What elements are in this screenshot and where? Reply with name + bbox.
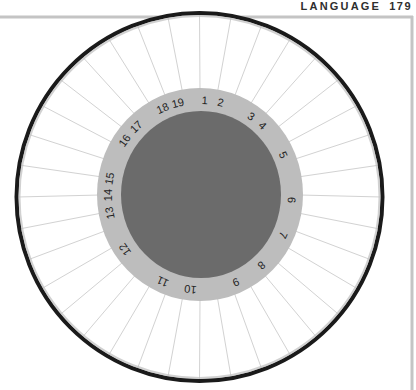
spoke-line [200,14,201,91]
circular-diagram: 12345678910111213141516171819 [0,0,416,390]
ring-label: 10 [184,283,197,296]
ring-label: 6 [286,197,298,204]
spoke-line [200,299,201,380]
ring-label: 15 [102,171,116,185]
ring-label: 1 [201,94,208,106]
ring-label: 13 [103,206,117,220]
ring-label: 14 [102,189,114,201]
center-disc [121,111,281,278]
